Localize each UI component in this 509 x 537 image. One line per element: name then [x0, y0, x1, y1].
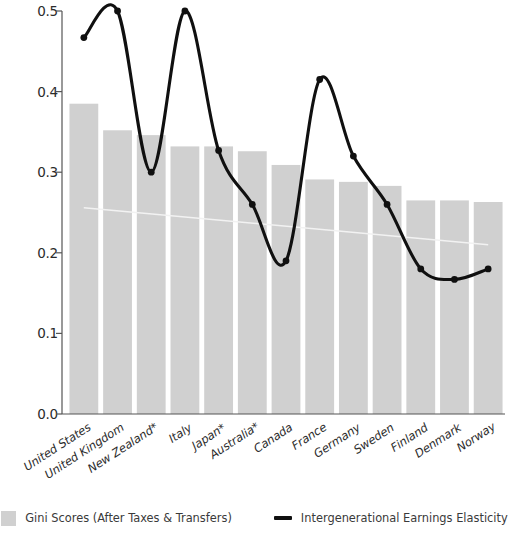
- chart-legend: Gini Scores (After Taxes & Transfers) In…: [0, 503, 509, 533]
- data-point-marker: [249, 201, 256, 208]
- bar: [440, 200, 469, 414]
- bar: [272, 165, 301, 414]
- data-point-marker: [417, 266, 424, 273]
- data-point-marker: [80, 34, 87, 41]
- data-point-marker: [114, 8, 121, 15]
- bar: [137, 135, 166, 414]
- line-swatch-icon: [274, 516, 292, 520]
- legend-item-ige: Intergenerational Earnings Elasticity: [274, 511, 508, 525]
- data-point-marker: [384, 201, 391, 208]
- data-point-marker: [485, 266, 492, 273]
- data-point-marker: [182, 8, 189, 15]
- bar: [171, 146, 200, 414]
- chart-plot-area: [0, 0, 509, 537]
- legend-label: Gini Scores (After Taxes & Transfers): [25, 511, 232, 525]
- bar: [339, 182, 368, 414]
- chart-container: 0.5 0.4 0.3 0.2 0.1 0.0 United StatesUni…: [0, 0, 509, 537]
- data-point-marker: [451, 276, 458, 283]
- data-point-marker: [316, 76, 323, 83]
- data-point-marker: [215, 147, 222, 154]
- bar: [103, 130, 132, 414]
- bar: [305, 179, 334, 414]
- legend-item-gini: Gini Scores (After Taxes & Transfers): [1, 511, 232, 526]
- bar: [204, 146, 233, 414]
- data-point-marker: [148, 169, 155, 176]
- bar: [373, 186, 402, 414]
- data-point-marker: [350, 153, 357, 160]
- square-swatch-icon: [1, 511, 16, 526]
- bar: [69, 104, 98, 414]
- y-axis-ticks: [56, 11, 62, 414]
- data-point-marker: [283, 257, 290, 264]
- bar: [474, 202, 503, 414]
- legend-label: Intergenerational Earnings Elasticity: [301, 511, 508, 525]
- bar: [406, 200, 435, 414]
